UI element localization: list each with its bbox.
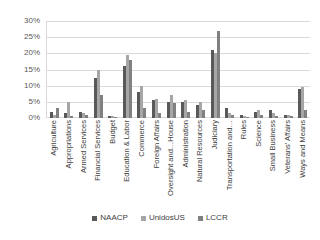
bar-group bbox=[164, 21, 179, 118]
y-axis-tick-label: 0% bbox=[0, 114, 40, 122]
x-axis-label-cell: Small Business bbox=[266, 120, 281, 202]
bar-group bbox=[193, 21, 208, 118]
bar bbox=[231, 115, 234, 118]
bar-group bbox=[281, 21, 296, 118]
legend-item[interactable]: NAACP bbox=[92, 214, 128, 222]
x-axis-tick-label: Oversight and…House bbox=[167, 120, 175, 196]
x-axis-label-cell: Transportation and… bbox=[222, 120, 237, 202]
chart-legend: NAACPUnidosUSLCCR bbox=[0, 214, 320, 222]
bar-group bbox=[47, 21, 62, 118]
bar-group bbox=[105, 21, 120, 118]
legend-swatch-icon bbox=[141, 216, 146, 221]
bar bbox=[246, 117, 249, 118]
x-axis-label-cell: Armed Services bbox=[76, 120, 91, 202]
bar bbox=[187, 112, 190, 118]
bar-group bbox=[135, 21, 150, 118]
x-axis-label-cell: Budget bbox=[105, 120, 120, 202]
y-axis-tick-label: 15% bbox=[0, 66, 40, 74]
x-axis-labels: AgricultureAppropriationsArmed ServicesF… bbox=[47, 120, 310, 202]
x-axis-label-cell: Science bbox=[252, 120, 267, 202]
bar-group bbox=[91, 21, 106, 118]
x-axis-tick-label: Agriculture bbox=[50, 120, 58, 156]
x-axis-label-cell: Education & Labor bbox=[120, 120, 135, 202]
bar-group bbox=[178, 21, 193, 118]
bar bbox=[114, 117, 117, 118]
bar-group bbox=[120, 21, 135, 118]
y-axis-tick-label: 25% bbox=[0, 33, 40, 41]
x-axis-tick-label: Small Business bbox=[269, 120, 277, 171]
bar-group bbox=[266, 21, 281, 118]
x-axis-label-cell: Veterans' Affairs bbox=[281, 120, 296, 202]
x-axis-label-cell: Agriculture bbox=[47, 120, 62, 202]
bar bbox=[70, 116, 73, 118]
bar-group bbox=[149, 21, 164, 118]
bar-group bbox=[208, 21, 223, 118]
x-axis-tick-label: Science bbox=[255, 120, 263, 147]
bar-group bbox=[76, 21, 91, 118]
x-axis-tick-label: Rules bbox=[240, 120, 248, 139]
bar bbox=[260, 115, 263, 118]
x-axis-label-cell: Commerce bbox=[135, 120, 150, 202]
x-axis-label-cell: Ways and Means bbox=[295, 120, 310, 202]
legend-label: NAACP bbox=[100, 214, 128, 222]
bar-group bbox=[222, 21, 237, 118]
y-axis-labels: 0%5%10%15%20%25%30% bbox=[0, 21, 42, 118]
y-axis-tick-label: 10% bbox=[0, 82, 40, 90]
y-axis-tick-label: 5% bbox=[0, 98, 40, 106]
x-axis-label-cell: Financial Services bbox=[91, 120, 106, 202]
y-axis-tick-label: 20% bbox=[0, 49, 40, 57]
y-axis-tick-label: 30% bbox=[0, 17, 40, 25]
x-axis-tick-label: Armed Services bbox=[80, 120, 88, 173]
legend-label: LCCR bbox=[206, 214, 228, 222]
legend-item[interactable]: LCCR bbox=[198, 214, 228, 222]
x-axis-tick-label: Veterans' Affairs bbox=[284, 120, 292, 174]
x-axis-tick-label: Foreign Affairs bbox=[153, 120, 161, 168]
bar bbox=[143, 108, 146, 118]
x-axis-tick-label: Budget bbox=[109, 120, 117, 144]
x-axis-tick-label: Administration bbox=[182, 120, 190, 168]
bar bbox=[290, 116, 293, 118]
legend-item[interactable]: UnidosUS bbox=[141, 214, 185, 222]
bar-groups bbox=[47, 21, 310, 118]
x-axis-tick-label: Ways and Means bbox=[299, 120, 307, 178]
bar bbox=[100, 95, 103, 118]
x-axis-label-cell: Judiciary bbox=[208, 120, 223, 202]
bar-group bbox=[252, 21, 267, 118]
x-axis-tick-label: Judiciary bbox=[211, 120, 219, 150]
legend-label: UnidosUS bbox=[149, 214, 185, 222]
x-axis-tick-label: Transportation and… bbox=[226, 120, 234, 190]
bar bbox=[217, 31, 220, 118]
bar bbox=[85, 115, 88, 118]
x-axis-tick-label: Education & Labor bbox=[123, 120, 131, 182]
bar bbox=[129, 60, 132, 118]
bar bbox=[304, 110, 307, 118]
bar bbox=[56, 108, 59, 118]
x-axis-tick-label: Appropriations bbox=[65, 120, 73, 168]
x-axis-label-cell: Natural Resources bbox=[193, 120, 208, 202]
bar-chart: 0%5%10%15%20%25%30% AgricultureAppropria… bbox=[0, 0, 320, 240]
legend-swatch-icon bbox=[198, 216, 203, 221]
bar bbox=[173, 103, 176, 118]
x-axis-tick-label: Financial Services bbox=[94, 120, 102, 181]
x-axis-label-cell: Foreign Affairs bbox=[149, 120, 164, 202]
x-axis-label-cell: Administration bbox=[178, 120, 193, 202]
x-axis-tick-label: Natural Resources bbox=[196, 120, 204, 182]
legend-swatch-icon bbox=[92, 216, 97, 221]
bar bbox=[275, 116, 278, 118]
bar bbox=[202, 110, 205, 118]
bar-group bbox=[295, 21, 310, 118]
x-axis-label-cell: Rules bbox=[237, 120, 252, 202]
bar-group bbox=[237, 21, 252, 118]
bar bbox=[158, 113, 161, 118]
x-axis-label-cell: Oversight and…House bbox=[164, 120, 179, 202]
bar-group bbox=[62, 21, 77, 118]
x-axis-label-cell: Appropriations bbox=[62, 120, 77, 202]
x-axis-tick-label: Commerce bbox=[138, 120, 146, 157]
